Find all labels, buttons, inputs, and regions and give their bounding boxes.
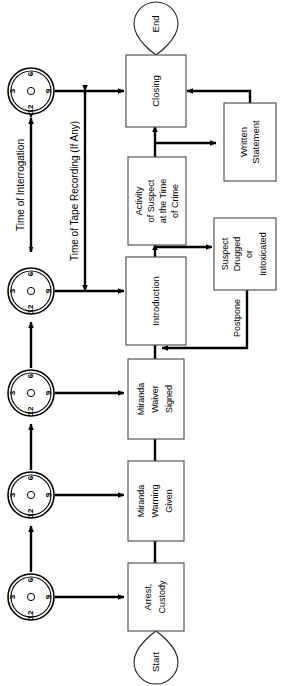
node-activity-line-2: of Suspect xyxy=(146,179,156,222)
node-activity-line-1: Activity xyxy=(134,186,144,215)
node-end-label: End xyxy=(150,16,161,33)
clock-numeral-3: 3 xyxy=(8,288,17,293)
node-warning-line-3: Given xyxy=(164,489,174,513)
node-activity[interactable]: Activity of Suspect at the Time of Crime xyxy=(128,157,186,245)
node-drugged-line-4: Intoxicated xyxy=(258,232,268,276)
node-end[interactable]: End xyxy=(134,2,178,55)
node-miranda-waiver[interactable]: Miranda Waiver Signed xyxy=(128,359,184,439)
node-miranda-warning[interactable]: Miranda Warning Given xyxy=(128,461,184,541)
axis-label-time-of-interrogation: Time of Interrogation xyxy=(15,139,26,231)
clock-icon-5[interactable]: 12 3 6 9 xyxy=(8,574,54,620)
node-suspect-drugged[interactable]: Suspect Drugged or Intoxicated xyxy=(214,218,276,290)
clock-numeral-6: 6 xyxy=(26,271,35,276)
clock-numeral-12: 12 xyxy=(26,104,35,113)
clock-numeral-6: 6 xyxy=(26,373,35,378)
clock-numeral-9: 9 xyxy=(44,594,53,599)
clock-icon-4[interactable]: 12 3 6 9 xyxy=(8,472,54,518)
flowchart-nodes-layer: End Start Closing Written Statement Acti… xyxy=(0,0,287,686)
node-activity-line-3: at the Time xyxy=(158,179,168,224)
node-arrest-line-1: Arrest, xyxy=(143,584,153,611)
node-waiver-line-2: Waiver xyxy=(150,385,160,413)
axis-label-time-of-tape-recording: Time of Tape Recording (If Any) xyxy=(69,121,80,261)
node-waiver-line-1: Miranda xyxy=(136,383,146,416)
clock-numeral-9: 9 xyxy=(44,390,53,395)
node-written-statement[interactable]: Written Statement xyxy=(224,103,276,181)
clock-numeral-6: 6 xyxy=(26,475,35,480)
clock-numeral-9: 9 xyxy=(44,288,53,293)
diagram-canvas: End Start Closing Written Statement Acti… xyxy=(0,0,287,686)
node-activity-line-4: of Crime xyxy=(170,184,180,218)
node-arrest-custody[interactable]: Arrest, Custody xyxy=(128,563,184,631)
node-introduction-label: Introduction xyxy=(150,276,161,326)
node-waiver-line-3: Signed xyxy=(164,385,174,413)
node-drugged-line-3: or xyxy=(244,250,254,258)
clock-numeral-12: 12 xyxy=(26,304,35,313)
clock-numeral-3: 3 xyxy=(8,594,17,599)
clock-numeral-3: 3 xyxy=(8,492,17,497)
node-warning-line-2: Warning xyxy=(150,484,160,517)
clock-numeral-6: 6 xyxy=(26,577,35,582)
node-start[interactable]: Start xyxy=(134,631,178,684)
node-drugged-line-2: Drugged xyxy=(232,237,242,272)
clock-numeral-12: 12 xyxy=(26,406,35,415)
clock-numeral-12: 12 xyxy=(26,508,35,517)
node-written-statement-line-2: Statement xyxy=(250,120,261,164)
node-warning-line-1: Miranda xyxy=(136,485,146,518)
clock-numeral-3: 3 xyxy=(8,88,17,93)
clock-numeral-9: 9 xyxy=(44,492,53,497)
clock-icon-3[interactable]: 12 3 6 9 xyxy=(8,370,54,416)
node-written-statement-line-1: Written xyxy=(238,127,249,157)
edge-label-postpone: Postpone xyxy=(232,299,242,337)
clock-numeral-3: 3 xyxy=(8,390,17,395)
node-drugged-line-1: Suspect xyxy=(220,237,230,270)
node-start-label: Start xyxy=(150,652,161,672)
node-closing[interactable]: Closing xyxy=(126,55,186,127)
clock-numeral-12: 12 xyxy=(26,610,35,619)
node-arrest-line-2: Custody xyxy=(157,580,167,614)
node-closing-label: Closing xyxy=(150,75,161,107)
clock-numeral-9: 9 xyxy=(44,88,53,93)
clock-icon-2[interactable]: 12 3 6 9 xyxy=(8,268,54,314)
clock-numeral-6: 6 xyxy=(26,71,35,76)
clock-icon-1[interactable]: 12 3 6 9 xyxy=(8,68,54,114)
node-introduction[interactable]: Introduction xyxy=(126,257,186,345)
